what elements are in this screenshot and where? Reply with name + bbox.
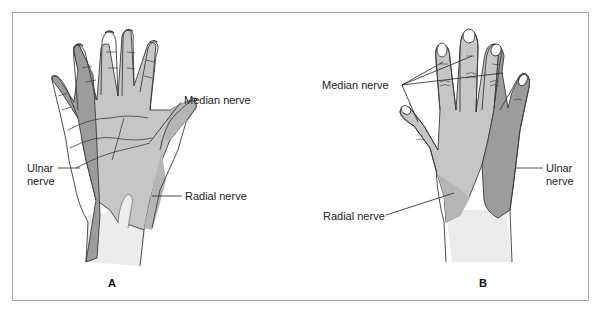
label-a-ulnar-line1: Ulnar <box>27 162 55 175</box>
label-a-median-nerve: Median nerve <box>184 94 251 107</box>
hand-b-dorsal <box>400 29 530 262</box>
leader-b-radial <box>386 193 454 215</box>
label-a-radial-nerve: Radial nerve <box>185 190 247 203</box>
label-b-ulnar-line2: nerve <box>546 175 574 188</box>
hands-illustration <box>0 0 601 316</box>
panel-letter-a: A <box>108 277 116 289</box>
label-b-median-nerve: Median nerve <box>322 79 389 92</box>
label-b-ulnar-line1: Ulnar <box>546 162 574 175</box>
panel-letter-b: B <box>479 277 487 289</box>
hand-a-palmar <box>52 30 197 267</box>
hand-b-wrist <box>446 210 512 262</box>
label-b-ulnar-nerve: Ulnar nerve <box>546 162 574 188</box>
label-b-radial-nerve: Radial nerve <box>323 210 385 223</box>
label-a-ulnar-line2: nerve <box>27 175 55 188</box>
label-a-ulnar-nerve: Ulnar nerve <box>27 162 55 188</box>
